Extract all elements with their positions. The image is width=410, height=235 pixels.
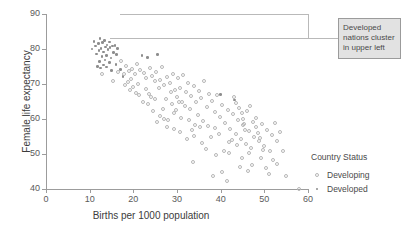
x-axis-title: Births per 1000 population	[36, 210, 266, 221]
data-point-developing	[137, 93, 141, 97]
data-point-developing	[231, 112, 235, 116]
data-point-developed	[102, 64, 105, 67]
data-point-developing	[178, 130, 182, 134]
data-point-developed	[99, 37, 102, 40]
x-tick-mark	[221, 189, 222, 193]
data-point-developing	[220, 103, 224, 107]
data-point-developing	[165, 75, 169, 79]
data-point-developing	[144, 76, 148, 80]
y-tick-label: 90	[0, 9, 40, 18]
data-point-developed	[110, 69, 113, 72]
data-point-developing	[213, 126, 217, 130]
data-point-developing	[135, 62, 139, 66]
data-point-developing	[190, 128, 194, 132]
data-point-developed	[102, 51, 105, 54]
data-point-developing	[248, 104, 252, 108]
annotation-callout-box: Developednations clusterin upper left	[338, 18, 401, 59]
data-point-developing	[116, 70, 120, 74]
data-point-developing	[220, 170, 224, 174]
data-point-developing	[136, 82, 140, 86]
data-point-developing	[173, 88, 177, 92]
x-tick-mark	[133, 189, 134, 193]
data-point-developed	[97, 42, 100, 45]
data-point-developing	[281, 149, 285, 153]
data-point-developing	[147, 92, 151, 96]
y-axis-title: Female life expectancy	[21, 27, 32, 177]
data-point-developing	[171, 72, 175, 76]
data-point-developing	[196, 113, 200, 117]
annotation-callout-text: Developednations clusterin upper left	[343, 23, 400, 53]
data-point-developing	[227, 151, 231, 155]
data-point-developing	[210, 99, 214, 103]
data-point-developing	[247, 129, 251, 133]
data-point-developing	[169, 90, 173, 94]
data-point-developing	[157, 86, 161, 90]
data-point-developing	[180, 100, 184, 104]
data-point-developing	[119, 59, 123, 63]
x-tick-label: 50	[249, 194, 279, 204]
callout-leader-line-top	[120, 14, 308, 15]
x-tick-label: 30	[162, 194, 192, 204]
x-tick-mark	[90, 189, 91, 193]
data-point-developing	[271, 158, 275, 162]
data-point-developing	[245, 109, 249, 113]
data-point-developing	[259, 156, 263, 160]
data-point-developing	[170, 102, 174, 106]
data-point-developing	[165, 125, 169, 129]
data-point-developing	[160, 65, 164, 69]
data-point-developing	[198, 125, 202, 129]
data-point-developed	[115, 53, 118, 56]
data-point-developing	[244, 142, 248, 146]
data-point-developing	[275, 162, 279, 166]
data-point-developing	[205, 105, 209, 109]
data-point-developing	[191, 160, 195, 164]
data-point-developing	[178, 86, 182, 90]
data-point-developing	[131, 85, 135, 89]
data-point-developing	[250, 163, 254, 167]
data-point-developing	[275, 139, 279, 143]
data-point-developing	[151, 109, 155, 113]
data-point-developed	[99, 67, 102, 70]
data-point-developing	[225, 179, 229, 183]
data-point-developed	[105, 54, 108, 57]
data-point-developing	[189, 94, 193, 98]
data-point-developing	[176, 76, 180, 80]
data-point-developing	[197, 89, 201, 93]
data-point-developing	[200, 141, 204, 145]
data-point-developing	[148, 66, 152, 70]
data-point-developing	[188, 107, 192, 111]
data-point-developing	[238, 165, 242, 169]
data-point-developing	[242, 122, 246, 126]
data-point-developing	[297, 187, 301, 191]
data-point-developing	[215, 93, 219, 97]
data-point-developing	[186, 81, 190, 85]
x-tick-mark	[264, 189, 265, 193]
data-point-developed	[100, 47, 103, 50]
data-point-developed	[91, 48, 94, 51]
data-point-developing	[179, 116, 183, 120]
data-point-developing	[161, 107, 165, 111]
data-point-developing	[162, 117, 166, 121]
data-point-developing	[150, 74, 154, 78]
data-point-developing	[209, 135, 213, 139]
x-tick-label: 40	[206, 194, 236, 204]
data-point-developing	[153, 97, 157, 101]
data-point-developing	[184, 90, 188, 94]
data-point-developing	[213, 110, 217, 114]
data-point-developing	[236, 118, 240, 122]
data-point-developing	[254, 125, 258, 129]
data-point-developed	[95, 53, 98, 56]
data-point-developing	[235, 143, 239, 147]
data-point-developing	[123, 83, 127, 87]
data-point-developing	[201, 119, 205, 123]
data-point-developed	[104, 59, 107, 62]
data-point-developing	[192, 134, 196, 138]
data-point-developing	[261, 148, 265, 152]
x-tick-label: 20	[118, 194, 148, 204]
data-point-developing	[267, 172, 271, 176]
filled-dot-marker-icon	[316, 188, 319, 191]
legend-item-label: Developing	[327, 170, 370, 180]
data-point-developed	[103, 39, 106, 42]
legend-item-developed[interactable]: Developed	[311, 182, 407, 196]
legend-item-developing[interactable]: Developing	[311, 168, 407, 182]
